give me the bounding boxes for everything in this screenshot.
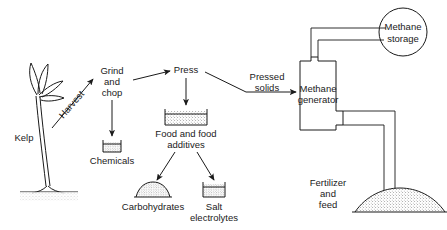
methane-generator-line2: generator (298, 94, 339, 105)
diagram-canvas: Kelp Harvest Grind and chop Press Presse… (0, 0, 447, 230)
grind-to-press-arrow (133, 71, 170, 80)
press-label: Press (174, 64, 199, 75)
chemicals-label: Chemicals (90, 155, 135, 166)
harvest-label: Harvest (56, 88, 86, 120)
grind-and-chop-line2: and (104, 76, 120, 87)
fertilizer-line1: Fertilizer (310, 177, 346, 188)
pressed-solids-line1: Pressed (250, 71, 285, 82)
methane-storage-line1: Methane (385, 21, 422, 32)
methane-pipe-inner (318, 40, 384, 57)
grind-and-chop-node: Grind and chop (100, 65, 123, 98)
fertilizer-pipe-right (343, 111, 395, 196)
methane-generator-line1: Methane (300, 83, 337, 94)
food-to-salt-arrow (197, 152, 214, 180)
fertilizer-line2: and (320, 188, 336, 199)
food-additives-line2: additives (167, 139, 205, 150)
salt-electrolytes-line1: Salt (206, 201, 223, 212)
food-additives-container-icon (165, 109, 207, 125)
kelp-process-flow-diagram: Kelp Harvest Grind and chop Press Presse… (0, 0, 447, 230)
carbohydrates-label: Carbohydrates (122, 201, 185, 212)
methane-pipe-outer (311, 28, 386, 57)
food-additives-line1: Food and food (155, 128, 216, 139)
grind-and-chop-line3: chop (102, 87, 123, 98)
pressed-solids-line2: solids (255, 82, 280, 93)
carbohydrates-mound-icon (134, 182, 172, 197)
food-to-carbohydrates-arrow (157, 152, 175, 180)
grind-and-chop-line1: Grind (100, 65, 123, 76)
salt-electrolytes-container-icon (203, 182, 225, 197)
kelp-label: Kelp (14, 132, 33, 143)
salt-electrolytes-line2: electrolytes (190, 212, 238, 223)
chemicals-container-icon (103, 140, 121, 152)
fertilizer-pipe-left (343, 125, 384, 196)
fertilizer-mound-icon (352, 188, 447, 212)
fertilizer-line3: feed (319, 199, 338, 210)
methane-storage-line2: storage (387, 33, 419, 44)
